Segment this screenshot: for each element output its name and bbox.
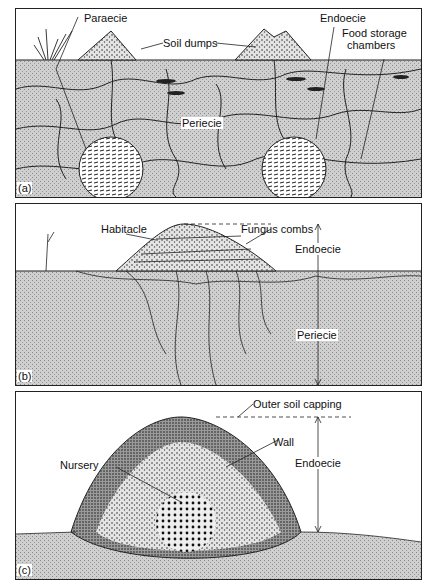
label-nursery: Nursery <box>60 459 99 471</box>
label-paraecie: Paraecie <box>84 12 127 24</box>
panel-b-illustration <box>16 204 421 385</box>
label-endoecie: Endoecie <box>320 12 366 24</box>
panel-label-a: (a) <box>17 182 32 194</box>
label-periecie: Periecie <box>296 329 338 341</box>
label-endoecie: Endoecie <box>294 243 342 255</box>
panel-b-diagram: Habitacle Fungus combs Endoecie Periecie… <box>15 203 422 386</box>
panel-label-c: (c) <box>17 564 32 576</box>
label-periecie: Periecie <box>181 117 223 129</box>
label-soil-dumps: Soil dumps <box>163 37 217 49</box>
label-chambers: chambers <box>347 39 395 51</box>
label-wall: Wall <box>273 436 294 448</box>
label-endoecie: Endoecie <box>294 457 342 469</box>
panel-c-illustration <box>16 392 421 579</box>
panel-a-diagram: Paraecie Soil dumps Endoecie Food storag… <box>15 8 422 198</box>
label-fungus-combs: Fungus combs <box>241 223 313 235</box>
panel-label-b: (b) <box>17 370 32 382</box>
label-outer-soil-capping: Outer soil capping <box>253 398 342 410</box>
label-food-storage: Food storage <box>342 27 407 39</box>
panel-c-diagram: Outer soil capping Wall Nursery Endoecie… <box>15 391 422 580</box>
label-habitacle: Habitacle <box>101 223 147 235</box>
